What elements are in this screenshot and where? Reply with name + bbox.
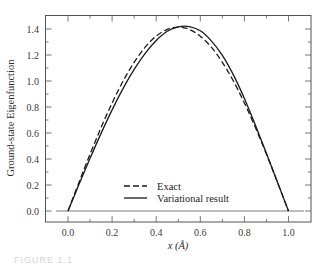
x-tick-label: 0.2: [106, 227, 119, 238]
y-tick-label: 0.6: [27, 128, 40, 139]
y-tick-labels: 0.00.20.40.60.81.01.21.4: [27, 24, 40, 217]
y-tick-label: 1.0: [27, 76, 40, 87]
x-tick-label: 0.6: [194, 227, 207, 238]
x-tick-label: 0.4: [150, 227, 163, 238]
legend-label-exact: Exact: [157, 181, 181, 192]
x-tick-label: 0.8: [238, 227, 251, 238]
y-tick-label: 0.0: [27, 206, 40, 217]
y-tick-label: 0.2: [27, 180, 40, 191]
legend: Exact Variational result: [124, 181, 229, 204]
x-axis-label: x (Å): [167, 240, 189, 252]
figure-caption: FIGURE 1.1: [14, 255, 73, 265]
y-tick-label: 1.4: [27, 24, 40, 35]
y-tick-label: 0.8: [27, 102, 40, 113]
y-tick-label: 0.4: [27, 154, 40, 165]
x-tick-label: 1.0: [282, 227, 295, 238]
x-tick-label: 0.0: [62, 227, 75, 238]
y-tick-label: 1.2: [27, 50, 40, 61]
y-axis-label: Ground-state Eigenfunction: [5, 59, 16, 177]
chart: 0.00.20.40.60.81.0 0.00.20.40.60.81.01.2…: [0, 0, 329, 265]
x-tick-labels: 0.00.20.40.60.81.0: [62, 227, 295, 238]
legend-label-variational: Variational result: [157, 193, 229, 204]
